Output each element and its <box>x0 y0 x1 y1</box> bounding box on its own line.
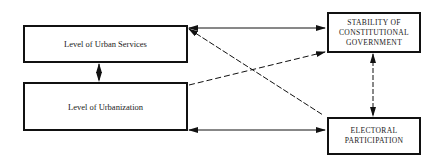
node-electoral-line-2: PARTICIPATION <box>345 136 404 146</box>
node-stability-line-1: STABILITY OF <box>347 18 401 28</box>
node-urbanization: Level of Urbanization <box>23 82 188 131</box>
node-urban-services-label: Level of Urban Services <box>64 39 147 49</box>
arrow-services-electoral <box>189 29 323 115</box>
node-stability-line-3: GOVERNMENT <box>346 38 402 48</box>
node-stability: STABILITY OF CONSTITUTIONAL GOVERNMENT <box>327 12 421 53</box>
node-stability-line-2: CONSTITUTIONAL <box>339 28 409 38</box>
node-urban-services: Level of Urban Services <box>23 25 188 63</box>
node-electoral: ELECTORAL PARTICIPATION <box>327 117 421 155</box>
causal-diagram: Level of Urban Services Level of Urbaniz… <box>0 0 444 167</box>
arrow-urbanization-stability <box>189 52 325 85</box>
node-urbanization-label: Level of Urbanization <box>68 102 143 112</box>
node-electoral-line-1: ELECTORAL <box>351 126 398 136</box>
